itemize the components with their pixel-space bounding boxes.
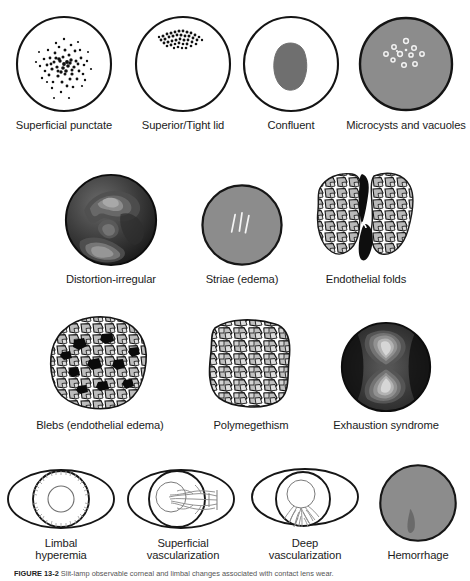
panel-label: Hemorrhage	[387, 549, 448, 562]
panel-endothelial-folds: Endothelial folds	[298, 166, 434, 286]
figure-plate: Superficial punctate	[0, 0, 470, 581]
polymegethism-illustration	[203, 314, 299, 414]
row-corneal-distortion: Distortion-irregular Striae (edema)	[0, 150, 470, 286]
panel-label: Superficial vascularization	[147, 537, 220, 562]
superficial-vascularization-illustration	[127, 466, 239, 532]
panel-label: Exhaustion syndrome	[333, 419, 439, 432]
panel-label: Deep vascularization	[269, 537, 342, 562]
panel-superficial-vascularization: Superficial vascularization	[122, 466, 244, 562]
deep-vascularization-illustration	[249, 466, 361, 532]
panel-exhaustion-syndrome: Exhaustion syndrome	[316, 320, 456, 432]
panel-striae-edema: Striae (edema)	[186, 182, 298, 286]
panel-label: Distortion-irregular	[66, 273, 156, 286]
panel-label: Confluent	[268, 119, 315, 132]
panel-label: Endothelial folds	[326, 273, 406, 286]
panel-microcysts-and-vacuoles: Microcysts and vacuoles	[343, 14, 469, 132]
row-limbal-vascular: Limbal hyperemia	[0, 448, 470, 562]
exhaustion-syndrome-illustration	[339, 320, 433, 414]
panel-label: Blebs (endothelial edema)	[36, 419, 163, 432]
limbal-hyperemia-illustration	[5, 466, 117, 532]
striae-edema-illustration	[199, 182, 285, 268]
microcysts-and-vacuoles-illustration	[356, 14, 456, 114]
panel-confluent: Confluent	[239, 14, 343, 132]
panel-blebs-endothelial-edema: Blebs (endothelial edema)	[14, 312, 186, 432]
blebs-endothelial-edema-illustration	[44, 312, 156, 414]
endothelial-folds-illustration	[312, 166, 420, 268]
panel-label: Superficial punctate	[16, 119, 112, 132]
hemorrhage-illustration	[377, 462, 459, 544]
confluent-illustration	[241, 14, 341, 114]
row-epithelial-staining: Superficial punctate	[0, 8, 470, 132]
panel-polymegethism: Polymegethism	[186, 314, 316, 432]
panel-label: Polymegethism	[213, 419, 288, 432]
figure-caption-text: Slit-lamp observable corneal and limbal …	[61, 569, 334, 578]
panel-hemorrhage: Hemorrhage	[366, 462, 470, 562]
panel-superficial-punctate: Superficial punctate	[1, 14, 127, 132]
superficial-punctate-illustration	[14, 14, 114, 114]
panel-label: Superior/Tight lid	[142, 119, 224, 132]
superior-tight-lid-illustration	[133, 14, 233, 114]
row-endothelial-changes: Blebs (endothelial edema)	[0, 300, 470, 432]
panel-distortion-irregular: Distortion-irregular	[36, 172, 186, 286]
panel-label: Striae (edema)	[206, 273, 279, 286]
distortion-irregular-illustration	[63, 172, 159, 268]
figure-caption-label: FIGURE 13-2	[14, 569, 59, 578]
panel-label: Microcysts and vacuoles	[346, 119, 466, 132]
panel-label: Limbal hyperemia	[35, 537, 86, 562]
panel-limbal-hyperemia: Limbal hyperemia	[0, 466, 122, 562]
panel-superior-tight-lid: Superior/Tight lid	[127, 14, 239, 132]
figure-caption: FIGURE 13-2 Slit-lamp observable corneal…	[14, 569, 460, 581]
panel-deep-vascularization: Deep vascularization	[244, 466, 366, 562]
